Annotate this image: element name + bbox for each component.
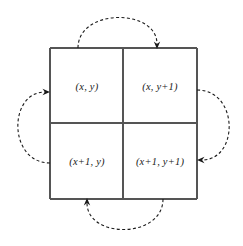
cell-label-bottom-left: (x+1, y) — [69, 156, 105, 167]
right-arrow-head — [197, 157, 205, 163]
grid-lines — [50, 48, 197, 199]
grid-rotation-diagram: (x, y) (x, y+1) (x+1, y) (x+1, y+1) — [0, 0, 243, 246]
bottom-arrow-path — [87, 199, 163, 230]
top-arrow-path — [78, 17, 157, 48]
right-arrow-path — [197, 90, 229, 160]
cell-label-top-left: (x, y) — [76, 81, 99, 92]
diagram-canvas — [0, 0, 243, 246]
cell-label-bottom-right: (x+1, y+1) — [136, 156, 184, 167]
left-arrow-head — [43, 89, 51, 95]
left-arrow-path — [18, 92, 50, 163]
cell-label-top-right: (x, y+1) — [142, 81, 178, 92]
